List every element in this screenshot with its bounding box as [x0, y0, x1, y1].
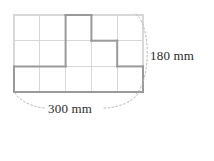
answer-blank-row: ( ): [0, 126, 214, 161]
leader-arc-height: [136, 14, 147, 94]
grid-light-lines: [14, 15, 143, 92]
dimension-label-height: 180 mm: [150, 48, 194, 64]
dimension-label-width: 300 mm: [48, 101, 92, 117]
step-path: [14, 15, 143, 92]
